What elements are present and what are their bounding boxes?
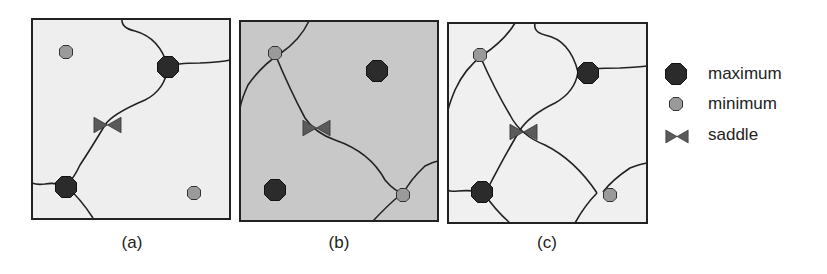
legend [666, 64, 689, 143]
legend-label-maximum: maximum [708, 64, 782, 84]
legend-saddle-icon [666, 130, 688, 143]
caption-c: (c) [517, 233, 577, 253]
panel-c [448, 23, 647, 223]
panel-a [32, 19, 230, 219]
panel-b [240, 21, 438, 221]
minimum-marker [188, 187, 201, 200]
minimum-marker [60, 46, 73, 59]
minimum-marker [474, 49, 487, 62]
caption-a: (a) [102, 233, 162, 253]
legend-maximum-icon [666, 64, 687, 85]
maximum-marker [578, 63, 599, 84]
legend-minimum-icon [670, 98, 683, 111]
minimum-marker [397, 189, 410, 202]
legend-label-minimum: minimum [708, 94, 777, 114]
legend-label-saddle: saddle [708, 125, 758, 145]
maximum-marker [56, 177, 77, 198]
minimum-marker [269, 47, 282, 60]
minimum-marker [604, 189, 617, 202]
maximum-marker [158, 57, 179, 78]
caption-b: (b) [309, 233, 369, 253]
maximum-marker [472, 182, 493, 203]
maximum-marker [265, 180, 286, 201]
maximum-marker [367, 61, 388, 82]
